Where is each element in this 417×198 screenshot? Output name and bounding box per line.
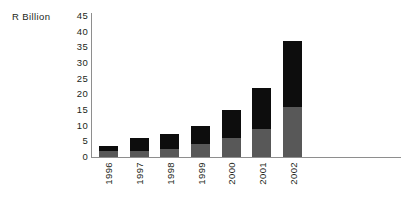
x-axis-tick-label-2000: 2000 (226, 162, 237, 185)
bar-chart: R Billion 051015202530354045 19961997199… (0, 0, 417, 198)
bar-segment-lower-1999 (191, 144, 210, 157)
x-axis-tick-label-2001: 2001 (256, 162, 267, 185)
plot-area (93, 16, 308, 157)
y-axis-tick-45: 45 (77, 11, 88, 21)
bar-2000 (222, 110, 241, 157)
bar-1998 (160, 134, 179, 157)
x-axis-tick-1998: 1998 (160, 160, 179, 196)
y-axis-tick-10: 10 (77, 121, 88, 131)
x-axis-tick-1999: 1999 (191, 160, 210, 196)
x-axis-tick-label-1998: 1998 (164, 162, 175, 185)
x-axis-tick-1996: 1996 (99, 160, 118, 196)
y-axis-tick-labels: 051015202530354045 (62, 16, 88, 157)
y-axis-tick-15: 15 (77, 105, 88, 115)
bar-1997 (130, 138, 149, 157)
bar-segment-lower-2001 (252, 129, 271, 157)
bar-segment-upper-2000 (222, 110, 241, 138)
bar-1999 (191, 126, 210, 157)
x-axis-line (91, 157, 401, 158)
y-axis-tick-35: 35 (77, 43, 88, 53)
y-axis-tick-30: 30 (77, 58, 88, 68)
y-axis-tick-5: 5 (82, 137, 88, 147)
x-axis-tick-2001: 2001 (252, 160, 271, 196)
bar-segment-upper-1997 (130, 138, 149, 151)
bar-segment-upper-1998 (160, 134, 179, 150)
bar-2001 (252, 88, 271, 157)
y-axis-tick-25: 25 (77, 74, 88, 84)
x-axis-tick-label-1999: 1999 (195, 162, 206, 185)
x-axis-tick-label-1997: 1997 (134, 162, 145, 185)
bar-segment-lower-2000 (222, 138, 241, 157)
y-axis-tick-20: 20 (77, 90, 88, 100)
x-axis-tick-2002: 2002 (283, 160, 302, 196)
bar-segment-lower-1998 (160, 149, 179, 157)
bar-segment-upper-1999 (191, 126, 210, 145)
y-axis-tick-40: 40 (77, 27, 88, 37)
bar-segment-upper-2002 (283, 41, 302, 107)
x-axis-tick-label-1996: 1996 (103, 162, 114, 185)
bar-segment-lower-2002 (283, 107, 302, 157)
y-axis-title: R Billion (12, 11, 50, 22)
bar-1996 (99, 146, 118, 157)
bar-2002 (283, 41, 302, 157)
x-axis-tick-1997: 1997 (130, 160, 149, 196)
x-axis-tick-labels: 1996199719981999200020012002 (93, 160, 308, 198)
y-axis-line (91, 13, 92, 158)
x-axis-tick-2000: 2000 (222, 160, 241, 196)
y-axis-tick-0: 0 (82, 152, 88, 162)
x-axis-tick-label-2002: 2002 (287, 162, 298, 185)
bar-segment-upper-2001 (252, 88, 271, 129)
